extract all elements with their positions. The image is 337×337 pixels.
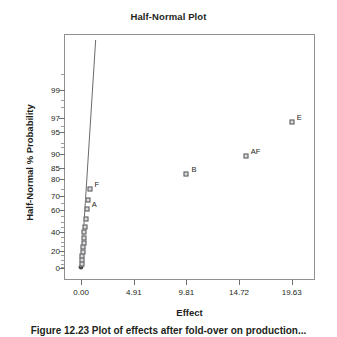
y-tick-label: 80 — [38, 175, 60, 184]
x-tick-mark — [292, 280, 293, 285]
y-tick-label: 99 — [38, 85, 60, 94]
data-point-f — [87, 186, 92, 191]
data-point — [81, 235, 86, 240]
x-tick-mark — [81, 280, 82, 285]
y-tick-label: 97 — [38, 113, 60, 122]
data-point — [82, 230, 87, 235]
y-tick-label: 85 — [38, 164, 60, 173]
x-axis-label: Effect — [64, 307, 315, 318]
data-point-b — [184, 172, 189, 177]
y-tick-label: 40 — [38, 227, 60, 236]
y-axis-label: Half-Normal % Probability — [24, 63, 35, 263]
x-tick-label: 19.63 — [269, 288, 315, 297]
x-tick-label: 14.72 — [216, 288, 262, 297]
data-point — [81, 245, 86, 250]
plot-canvas — [64, 34, 315, 280]
x-tick-mark — [186, 280, 187, 285]
data-point — [83, 224, 88, 229]
y-tick-label: 60 — [38, 205, 60, 214]
data-point — [80, 249, 85, 254]
data-point-a — [84, 207, 89, 212]
y-tick-label: 90 — [38, 150, 60, 159]
point-label-f: F — [95, 179, 100, 188]
y-tick-label: 70 — [38, 192, 60, 201]
x-tick-label: 0.00 — [58, 288, 104, 297]
y-axis: 020406070808590959799 — [36, 0, 60, 337]
y-tick-label: 20 — [38, 246, 60, 255]
y-tick-label: 0 — [38, 264, 60, 273]
x-tick-label: 4.91 — [111, 288, 157, 297]
point-label-a: A — [92, 200, 97, 209]
data-point-e — [289, 120, 294, 125]
point-label-af: AF — [251, 146, 261, 155]
x-tick-label: 9.81 — [163, 288, 209, 297]
data-point — [80, 258, 85, 263]
data-point — [85, 198, 90, 203]
x-tick-mark — [239, 280, 240, 285]
data-point-af — [243, 153, 248, 158]
y-tick-label: 95 — [38, 128, 60, 137]
half-normal-plot-figure: Half-Normal Plot Half-Normal % Probabili… — [0, 0, 337, 337]
data-point — [83, 217, 88, 222]
data-point — [81, 240, 86, 245]
point-label-b: B — [191, 165, 196, 174]
x-tick-mark — [134, 280, 135, 285]
data-point — [80, 254, 85, 259]
figure-caption: Figure 12.23 Plot of effects after fold-… — [0, 325, 337, 336]
point-label-e: E — [297, 113, 302, 122]
